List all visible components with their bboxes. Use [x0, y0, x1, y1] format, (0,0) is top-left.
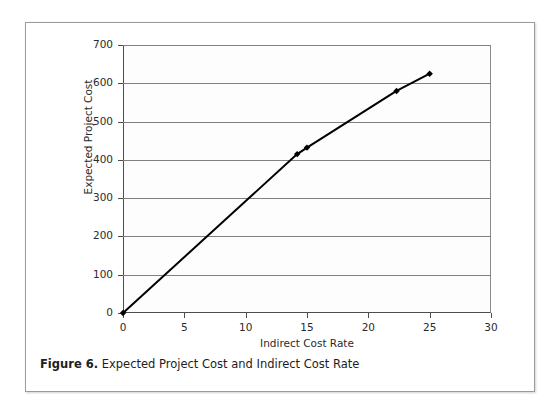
figure-caption: Figure 6. Expected Project Cost and Indi… — [40, 357, 520, 372]
x-axis-tick-mark — [368, 313, 369, 318]
y-axis-tick-label: 600 — [75, 77, 113, 88]
figure-caption-text: Expected Project Cost and Indirect Cost … — [102, 357, 360, 371]
x-axis-tick-label: 20 — [353, 322, 383, 333]
data-series-line — [123, 45, 491, 313]
x-axis-tick-mark — [246, 313, 247, 318]
x-axis-title: Indirect Cost Rate — [123, 337, 491, 349]
figure-caption-number: Figure 6. — [40, 357, 98, 371]
y-axis-tick-label: 0 — [75, 307, 113, 318]
chart-plot-region: 0100200300400500600700 051015202530 Expe… — [26, 23, 536, 338]
y-axis-tick-label: 500 — [75, 116, 113, 127]
x-axis-tick-mark — [184, 313, 185, 318]
x-axis-tick-label: 30 — [476, 322, 506, 333]
y-axis-title: Expected Project Cost — [82, 67, 94, 207]
x-axis-tick-label: 0 — [108, 322, 138, 333]
x-axis-tick-mark — [430, 313, 431, 318]
x-axis-tick-label: 5 — [169, 322, 199, 333]
y-axis-tick-label: 700 — [75, 39, 113, 50]
x-axis-tick-label: 15 — [292, 322, 322, 333]
x-axis-tick-label: 10 — [231, 322, 261, 333]
y-axis-tick-label: 200 — [75, 230, 113, 241]
y-axis-tick-label: 300 — [75, 192, 113, 203]
y-axis-tick-label: 400 — [75, 154, 113, 165]
x-axis-tick-label: 25 — [415, 322, 445, 333]
x-axis-tick-mark — [491, 313, 492, 318]
x-axis-tick-mark — [307, 313, 308, 318]
series-line — [123, 74, 430, 313]
figure-container: 0100200300400500600700 051015202530 Expe… — [25, 22, 535, 392]
y-axis-tick-label: 100 — [75, 269, 113, 280]
